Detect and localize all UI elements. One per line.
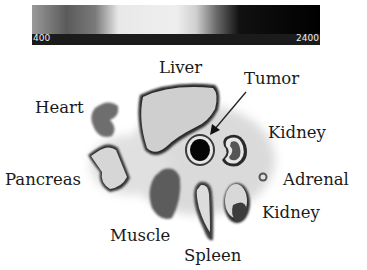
label-tumor: Tumor (244, 70, 299, 88)
label-liver: Liver (159, 59, 202, 77)
label-kidney-lower: Kidney (262, 204, 320, 222)
heart-organ (91, 102, 118, 137)
adrenal-organ (259, 173, 268, 182)
label-kidney-upper: Kidney (268, 124, 326, 142)
label-muscle: Muscle (110, 227, 170, 245)
spleen-organ (194, 182, 213, 241)
label-pancreas: Pancreas (5, 171, 81, 189)
kidney-lower-organ (224, 183, 250, 223)
label-adrenal: Adrenal (283, 171, 349, 189)
label-heart: Heart (35, 99, 84, 117)
label-spleen: Spleen (184, 247, 241, 265)
tumor-organ (185, 134, 215, 166)
